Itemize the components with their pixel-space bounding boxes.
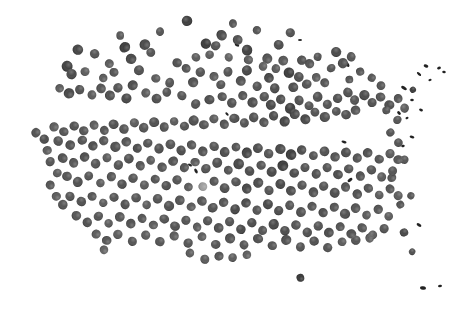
particle-shading (285, 201, 294, 210)
particle-fragment (298, 39, 302, 41)
particle-shading (149, 221, 158, 229)
particle-fragment (410, 99, 414, 101)
particle-scan-image (0, 0, 475, 319)
particle-scatter-canvas (0, 0, 475, 319)
